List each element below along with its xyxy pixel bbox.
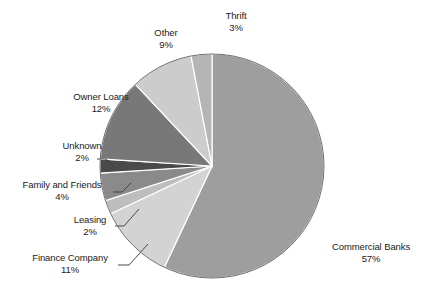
slice-label-other-value: 9% <box>137 39 195 51</box>
slice-label-owner-loans-value: 12% <box>57 103 145 115</box>
slice-label-commercial-banks-name: Commercial Banks <box>321 241 421 253</box>
slice-label-thrift: Thrift 3% <box>206 10 266 33</box>
slice-label-owner-loans: Owner Loans 12% <box>57 91 145 114</box>
slice-label-unknown-value: 2% <box>50 152 114 164</box>
slice-label-finance-company-value: 11% <box>20 264 120 276</box>
slice-label-owner-loans-name: Owner Loans <box>57 91 145 103</box>
slice-label-unknown: Unknown 2% <box>50 140 114 163</box>
slice-label-unknown-name: Unknown <box>50 140 114 152</box>
pie-slice-group <box>100 54 324 278</box>
slice-label-thrift-value: 3% <box>206 22 266 34</box>
slice-label-other: Other 9% <box>137 27 195 50</box>
slice-label-family-and-friends: Family and Friends 4% <box>10 179 114 202</box>
slice-label-finance-company: Finance Company 11% <box>20 252 120 275</box>
slice-label-leasing-name: Leasing <box>61 214 119 226</box>
slice-label-commercial-banks: Commercial Banks 57% <box>321 241 421 264</box>
pie-chart-figure: Thrift 3% Other 9% Owner Loans 12% Unkno… <box>0 0 424 292</box>
slice-label-family-and-friends-name: Family and Friends <box>10 179 114 191</box>
slice-label-commercial-banks-value: 57% <box>321 253 421 265</box>
slice-label-finance-company-name: Finance Company <box>20 252 120 264</box>
slice-label-other-name: Other <box>137 27 195 39</box>
slice-label-thrift-name: Thrift <box>206 10 266 22</box>
slice-label-family-and-friends-value: 4% <box>10 191 114 203</box>
slice-label-leasing: Leasing 2% <box>61 214 119 237</box>
slice-label-leasing-value: 2% <box>61 226 119 238</box>
